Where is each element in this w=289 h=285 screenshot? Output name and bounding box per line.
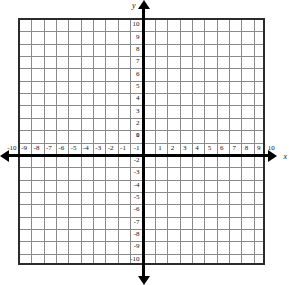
grid-line-vertical [155,20,156,263]
x-axis-tick-label: -7 [46,144,52,152]
x-axis-tick-label: -10 [7,144,16,152]
y-axis-tick-label: 4 [129,94,140,102]
y-axis-line [142,6,145,277]
grid-line-vertical [93,20,94,263]
x-axis-tick-label: 8 [245,144,249,152]
y-axis-tick-label: -7 [129,218,140,226]
origin-label: 0 [129,131,140,139]
y-axis-tick-label: -3 [129,168,140,176]
grid-line-vertical [241,20,242,263]
y-axis-tick-label: -9 [129,242,140,250]
grid-line-vertical [192,20,193,263]
x-axis-tick-label: -6 [58,144,64,152]
y-axis-tick-label: 9 [129,33,140,41]
x-axis-tick-label: -5 [71,144,77,152]
x-axis-tick-label: 5 [208,144,212,152]
grid-line-vertical [81,20,82,263]
y-axis-tick-label: 6 [129,70,140,78]
y-axis-tick-label: -1 [129,144,140,152]
x-axis-tick-label: 3 [183,144,187,152]
y-axis-tick-label: 7 [129,57,140,65]
y-axis-tick-label: -6 [129,205,140,213]
coordinate-plane-figure: x y -10-9-8-7-6-5-4-3-2-1123456789101098… [0,0,289,285]
x-axis-tick-label: 6 [220,144,224,152]
y-axis-tick-label: -10 [129,255,140,263]
grid-line-vertical [118,20,119,263]
grid-line-vertical [217,20,218,263]
grid-line-vertical [105,20,106,263]
grid-line-vertical [254,20,255,263]
grid-line-vertical [180,20,181,263]
y-axis-tick-label: -8 [129,230,140,238]
y-axis-up-arrow-icon [138,0,150,9]
y-axis-tick-label: 8 [129,45,140,53]
y-axis-down-arrow-icon [138,276,150,285]
y-axis-tick-label: -2 [129,156,140,164]
x-axis-tick-label: -8 [34,144,40,152]
x-axis-tick-label: 7 [232,144,236,152]
x-axis-tick-label: 1 [158,144,162,152]
y-axis-tick-label: 2 [129,119,140,127]
y-axis-tick-label: -4 [129,181,140,189]
x-axis-tick-label: 9 [257,144,261,152]
y-axis-tick-label: 10 [129,20,140,28]
x-axis-tick-label: 4 [195,144,199,152]
grid-line-vertical [68,20,69,263]
x-axis-tick-label: 2 [171,144,175,152]
x-axis-tick-label: -9 [21,144,27,152]
y-axis-tick-label: 3 [129,107,140,115]
y-axis-name-label: y [132,1,136,10]
x-axis-tick-label: -3 [95,144,101,152]
x-axis-tick-label: -1 [120,144,126,152]
y-axis-tick-label: -5 [129,193,140,201]
y-axis-tick-label: 5 [129,82,140,90]
x-axis-name-label: x [283,152,287,161]
x-axis-tick-label: -2 [108,144,114,152]
grid-line-vertical [204,20,205,263]
x-axis-tick-label: 10 [268,144,275,152]
grid-line-vertical [229,20,230,263]
grid-line-vertical [167,20,168,263]
x-axis-tick-label: -4 [83,144,89,152]
